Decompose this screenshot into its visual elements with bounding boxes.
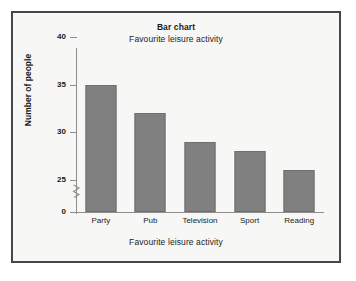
x-axis-category-label: Pub xyxy=(126,216,176,225)
y-axis-tick-label: 25 xyxy=(57,175,66,184)
x-axis-category-label: Television xyxy=(175,216,225,225)
x-axis-category-label: Party xyxy=(76,216,126,225)
bar-item[interactable]: Party xyxy=(76,37,126,212)
chart-title: Bar chart xyxy=(13,22,339,32)
bar-rect[interactable] xyxy=(284,170,315,212)
y-axis-tick: 0 xyxy=(70,212,77,213)
y-axis-tick-label: 40 xyxy=(57,32,66,41)
y-axis-tick-label: 35 xyxy=(57,80,66,89)
y-axis-title: Number of people xyxy=(23,35,33,145)
bar-rect[interactable] xyxy=(234,151,265,212)
y-axis-tick-label: 30 xyxy=(57,127,66,136)
bar-item[interactable]: Reading xyxy=(274,37,324,212)
bar-rect[interactable] xyxy=(135,113,166,212)
chart-frame: Bar chart Favourite leisure activity Num… xyxy=(11,11,341,263)
y-axis-tick-label: 0 xyxy=(62,207,66,216)
x-axis-category-label: Sport xyxy=(225,216,275,225)
bar-group: PartyPubTelevisionSportReading xyxy=(76,37,324,212)
bar-item[interactable]: Sport xyxy=(225,37,275,212)
bar-rect[interactable] xyxy=(184,142,215,212)
x-axis-category-label: Reading xyxy=(274,216,324,225)
plot-axes: 025303540 PartyPubTelevisionSportReading xyxy=(76,38,324,213)
x-axis-title: Favourite leisure activity xyxy=(13,237,339,247)
bar-rect[interactable] xyxy=(85,85,116,212)
x-axis-line xyxy=(76,212,324,213)
bar-item[interactable]: Television xyxy=(175,37,225,212)
bar-item[interactable]: Pub xyxy=(126,37,176,212)
chart-canvas: Bar chart Favourite leisure activity Num… xyxy=(13,13,339,261)
